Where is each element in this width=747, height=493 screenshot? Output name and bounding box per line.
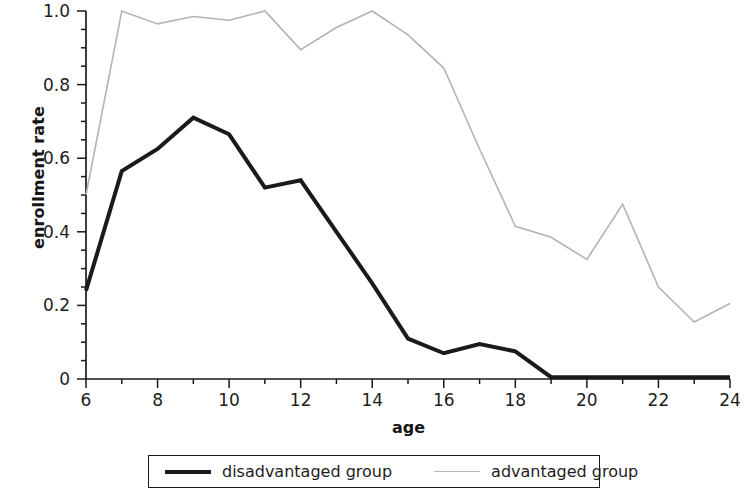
x-tick-label: 20 [567,390,607,410]
legend-label: disadvantaged group [222,462,392,481]
data-series-group [86,11,730,377]
legend-swatch-thin [434,471,480,472]
y-tick-label: 0.8 [10,75,70,95]
x-tick-label: 16 [424,390,464,410]
y-tick-label: 0.2 [10,295,70,315]
x-tick-label: 18 [495,390,535,410]
x-tick-label: 6 [66,390,106,410]
x-tick-label: 14 [352,390,392,410]
y-tick-label: 0.6 [10,148,70,168]
x-tick-label: 10 [209,390,249,410]
x-tick-label: 24 [710,390,747,410]
y-tick-label: 0 [10,369,70,389]
y-tick-label: 1.0 [10,1,70,21]
y-tick-label: 0.4 [10,222,70,242]
x-tick-label: 22 [638,390,678,410]
chart-figure: enrollment rate age 00.20.40.60.81.0 681… [0,0,747,493]
chart-legend: disadvantaged groupadvantaged group [148,455,600,488]
x-tick-label: 12 [281,390,321,410]
series-line-1 [86,11,730,322]
legend-label: advantaged group [491,462,638,481]
legend-swatch-thick [165,470,211,474]
x-tick-label: 8 [138,390,178,410]
series-line-0 [86,118,730,377]
legend-entry: disadvantaged group [165,456,392,487]
plot-area [0,0,747,493]
legend-entry: advantaged group [434,456,638,487]
